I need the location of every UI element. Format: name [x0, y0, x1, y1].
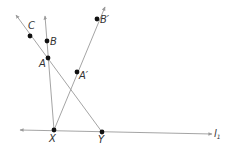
label-a-prime: A′ — [78, 70, 89, 81]
geometry-diagram: C B A A′ B′ X Y l1 — [0, 0, 232, 155]
point-c — [28, 34, 33, 39]
label-y: Y — [98, 134, 105, 145]
point-a — [46, 56, 51, 61]
label-a: A — [38, 58, 46, 69]
line-xa-prime-b-prime — [54, 7, 105, 130]
label-b: B — [50, 36, 57, 47]
point-x — [52, 128, 57, 133]
line-yac — [16, 15, 102, 132]
label-x: X — [48, 133, 57, 144]
point-b — [45, 39, 50, 44]
point-b-prime — [95, 17, 100, 22]
label-b-prime: B′ — [100, 14, 110, 25]
label-c: C — [28, 20, 35, 31]
line-xab — [45, 16, 54, 130]
label-l1: l1 — [214, 128, 221, 140]
